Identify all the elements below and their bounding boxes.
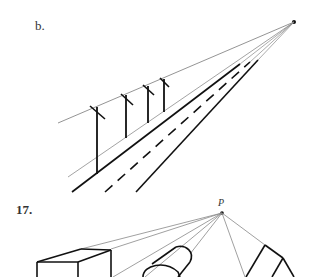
figure-17-projection <box>37 211 294 277</box>
telephone-pole <box>160 78 169 112</box>
perspective-drawings <box>0 0 316 277</box>
telephone-pole <box>143 85 154 123</box>
prism-shape <box>246 245 294 277</box>
projection-line <box>222 213 245 277</box>
road-right-edge <box>136 60 258 192</box>
telephone-pole <box>90 106 105 174</box>
ground-edge-line <box>68 22 294 177</box>
wire-line <box>58 22 294 123</box>
box-shape <box>37 249 111 277</box>
figure-b-road-perspective <box>58 20 296 192</box>
telephone-pole <box>121 94 133 138</box>
guide-line <box>240 22 294 64</box>
projection-line <box>190 213 222 254</box>
guide-line <box>258 22 294 60</box>
projection-line <box>222 213 265 245</box>
projection-line <box>111 213 222 249</box>
guide-line <box>250 22 294 62</box>
projection-line <box>113 213 222 277</box>
